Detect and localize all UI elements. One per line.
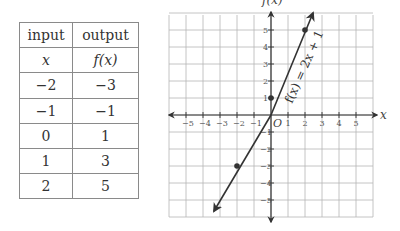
y-tick-label: 4 <box>263 43 268 52</box>
y-tick-label: 1 <box>263 94 268 103</box>
y-axis-label: f(x) <box>261 0 283 7</box>
x-tick-label: −1 <box>250 119 262 128</box>
x-tick-label: −2 <box>233 119 245 128</box>
x-tick-labels: −5−4−3−2−112345 <box>182 119 359 128</box>
y-tick-label: 5 <box>263 26 268 35</box>
y-tick-label: 2 <box>263 77 268 86</box>
y-tick-label: −3 <box>260 162 272 171</box>
x-tick-label: 5 <box>354 119 359 128</box>
y-tick-label: −4 <box>260 179 272 188</box>
x-axis-label: x <box>380 108 387 122</box>
x-tick-label: 2 <box>303 119 308 128</box>
x-tick-label: −3 <box>216 119 228 128</box>
x-tick-label: 4 <box>337 119 342 128</box>
origin-label: O <box>273 117 282 130</box>
x-tick-label: −4 <box>199 119 211 128</box>
plotted-point <box>234 163 240 169</box>
y-tick-label: −2 <box>260 145 272 154</box>
plotted-point <box>302 27 308 33</box>
x-tick-label: 3 <box>320 119 325 128</box>
plotted-point <box>268 95 274 101</box>
y-tick-label: 3 <box>263 60 268 69</box>
coordinate-graph: −5−4−3−2−112345 54321−1−2−3−4−5 x f(x) O… <box>0 0 400 231</box>
y-tick-label: −5 <box>260 196 272 205</box>
x-tick-label: −5 <box>182 119 194 128</box>
x-tick-label: 1 <box>286 119 291 128</box>
equation-label: f(x) = 2x + 1 <box>282 28 327 105</box>
